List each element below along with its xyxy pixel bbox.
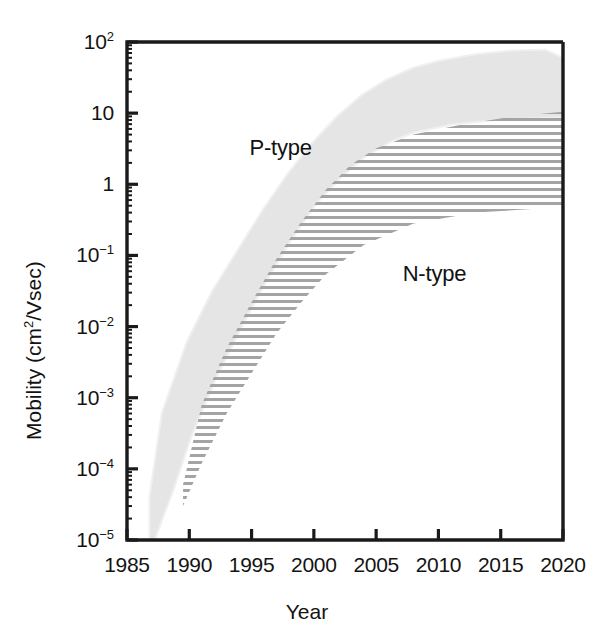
- y-tick-label: 1: [103, 173, 114, 194]
- y-axis-title: Mobility (cm2/Vsec): [22, 261, 46, 440]
- series-label-p-type: P-type: [249, 135, 311, 161]
- y-tick-label: 10−1: [76, 244, 114, 265]
- y-tick-label: 10−2: [76, 316, 114, 337]
- y-tick-label: 102: [84, 31, 114, 52]
- x-axis-title: Year: [0, 600, 614, 624]
- y-tick-label: 10−3: [76, 387, 114, 408]
- x-tick-label: 2020: [523, 554, 603, 575]
- series-label-n-type: N-type: [403, 261, 467, 287]
- y-tick-label: 10−5: [76, 529, 114, 550]
- y-tick-label: 10: [91, 102, 114, 123]
- mobility-vs-year-chart: 10210110−110−210−310−410−5 1985199019952…: [0, 0, 614, 641]
- y-tick-label: 10−4: [76, 458, 114, 479]
